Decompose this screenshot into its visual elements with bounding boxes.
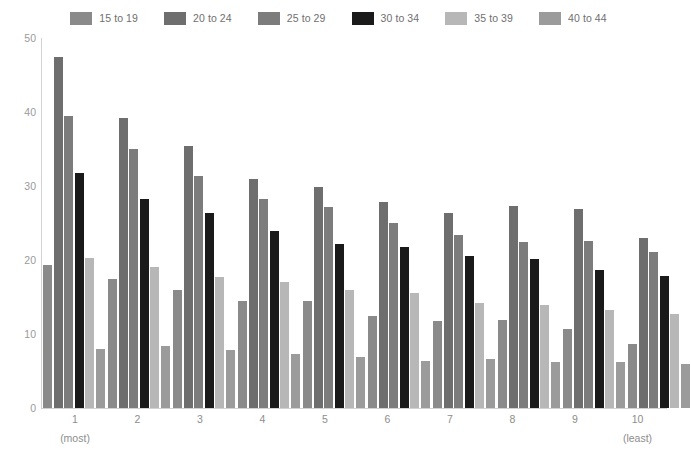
bar <box>129 149 138 408</box>
bar <box>681 364 690 408</box>
legend-item: 35 to 39 <box>445 12 513 25</box>
y-axis-tick-label: 10 <box>6 328 36 340</box>
legend-label: 20 to 24 <box>193 12 232 24</box>
x-axis-group: 8 <box>479 411 542 451</box>
bar <box>628 344 637 408</box>
bar <box>324 207 333 408</box>
bar-group <box>106 38 171 408</box>
bar <box>509 206 518 408</box>
legend-item: 30 to 34 <box>352 12 420 25</box>
legend-item: 25 to 29 <box>258 12 326 25</box>
bar <box>444 213 453 408</box>
x-axis-tick-label: 8 <box>493 413 533 425</box>
bar <box>475 303 484 408</box>
bar-group <box>366 38 431 408</box>
x-axis-tick-label: 4 <box>243 413 283 425</box>
bar <box>291 354 300 408</box>
bar <box>649 252 658 408</box>
bar <box>540 305 549 408</box>
x-axis-tick-label: 6 <box>368 413 408 425</box>
bar <box>249 179 258 408</box>
x-axis-group: 4 <box>229 411 292 451</box>
bar <box>96 349 105 408</box>
bar-group <box>171 38 236 408</box>
legend-label: 30 to 34 <box>381 12 420 24</box>
bar <box>584 241 593 408</box>
bar <box>519 242 528 409</box>
bar <box>616 362 625 408</box>
bar-group <box>626 38 691 408</box>
x-axis-tick-label: 2 <box>118 413 158 425</box>
x-axis-tick-label: 10 <box>618 413 658 425</box>
bar <box>75 173 84 408</box>
bar <box>465 256 474 408</box>
bar <box>454 235 463 408</box>
legend-swatch-icon <box>539 12 561 25</box>
x-axis-group: 6 <box>354 411 417 451</box>
x-axis-group: 5 <box>291 411 354 451</box>
bar <box>660 276 669 408</box>
bar-group <box>431 38 496 408</box>
bar <box>421 361 430 408</box>
x-axis-tick-label: 7 <box>430 413 470 425</box>
y-axis-tick-label: 50 <box>6 32 36 44</box>
bar <box>335 244 344 408</box>
legend-item: 40 to 44 <box>539 12 607 25</box>
bar <box>161 346 170 408</box>
bar <box>64 116 73 408</box>
bar <box>194 176 203 408</box>
legend-label: 15 to 19 <box>99 12 138 24</box>
bar-group <box>561 38 626 408</box>
y-axis-tick-label: 0 <box>6 402 36 414</box>
bar <box>173 290 182 408</box>
legend-swatch-icon <box>258 12 280 25</box>
bar <box>184 146 193 408</box>
bar <box>108 279 117 409</box>
legend-label: 35 to 39 <box>474 12 513 24</box>
bar-group <box>41 38 106 408</box>
bar <box>498 320 507 408</box>
bar <box>226 350 235 408</box>
bar <box>410 293 419 408</box>
x-axis-group: 3 <box>166 411 229 451</box>
bar <box>215 277 224 408</box>
bar <box>379 202 388 408</box>
legend-swatch-icon <box>445 12 467 25</box>
x-axis-tick-label: 5 <box>305 413 345 425</box>
bar <box>670 314 679 408</box>
x-axis-sublabel: (most) <box>48 432 102 444</box>
legend-label: 40 to 44 <box>568 12 607 24</box>
bar <box>345 290 354 408</box>
bar <box>551 362 560 408</box>
bar <box>356 357 365 408</box>
bar <box>205 213 214 408</box>
legend-swatch-icon <box>164 12 186 25</box>
bar <box>54 57 63 409</box>
legend-item: 20 to 24 <box>164 12 232 25</box>
y-axis-tick-label: 20 <box>6 254 36 266</box>
legend-swatch-icon <box>352 12 374 25</box>
legend-label: 25 to 29 <box>287 12 326 24</box>
bar <box>314 187 323 408</box>
bar-group <box>301 38 366 408</box>
legend-item: 15 to 19 <box>70 12 138 25</box>
x-axis-tick-label: 1 <box>55 413 95 425</box>
bar-group <box>496 38 561 408</box>
bar <box>400 247 409 408</box>
bar <box>639 238 648 408</box>
bar-groups <box>41 38 666 408</box>
bar-group <box>236 38 301 408</box>
bar <box>574 209 583 408</box>
bar <box>140 199 149 408</box>
x-axis-sublabel: (least) <box>611 432 665 444</box>
bar <box>238 301 247 408</box>
bar <box>368 316 377 408</box>
x-axis-group: 7 <box>416 411 479 451</box>
bar <box>280 282 289 408</box>
bar <box>605 310 614 408</box>
bar <box>303 301 312 408</box>
y-axis: 01020304050 <box>0 38 36 408</box>
bar <box>85 258 94 408</box>
bar <box>595 270 604 408</box>
x-axis-group: 1(most) <box>41 411 104 451</box>
